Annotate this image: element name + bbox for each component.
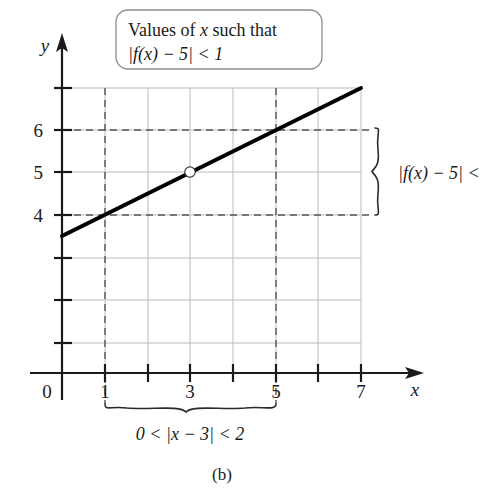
x-tick-label-1: 1 [100, 381, 110, 402]
y-tick-label-5: 5 [34, 162, 44, 183]
grid-lines [62, 88, 361, 373]
y-tick-label-4: 4 [34, 205, 44, 226]
bottom-brace [105, 404, 276, 412]
y-axis-label: y [39, 35, 50, 56]
right-brace-label: |f(x) − 5| < [398, 163, 480, 184]
origin-label: 0 [42, 381, 52, 402]
x-tick-label-3: 3 [185, 381, 195, 402]
open-point-marker [185, 167, 195, 177]
x-axis-label: x [410, 379, 420, 400]
x-tick-label-7: 7 [356, 381, 366, 402]
right-brace [372, 128, 379, 215]
y-tick-label-6: 6 [34, 120, 44, 141]
callout-line-1-prefix: Values of [128, 20, 200, 40]
callout-line-1-suffix: such that [208, 20, 277, 40]
graph-canvas: 6 5 4 1 3 5 7 0 y x Values of x such tha… [0, 0, 494, 503]
bottom-brace-label: 0 < |x − 3| < 2 [136, 424, 244, 444]
callout-line-1: Values of x such that [128, 20, 277, 40]
guide-lines [62, 88, 372, 404]
figure-caption: (b) [212, 465, 232, 484]
function-line [62, 88, 361, 236]
callout-line-2: |f(x) − 5| < 1 [128, 44, 223, 65]
figure-container: 6 5 4 1 3 5 7 0 y x Values of x such tha… [0, 0, 494, 503]
callout-line-1-var: x [199, 20, 208, 40]
x-tick-label-5: 5 [271, 381, 281, 402]
